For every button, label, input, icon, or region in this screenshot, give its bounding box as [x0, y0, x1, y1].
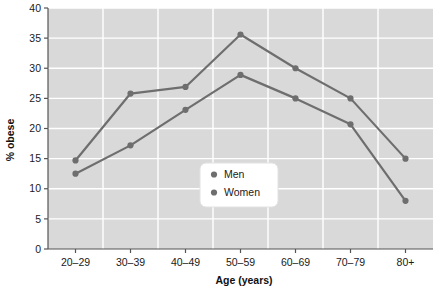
chart-canvas: 0510152025303540 20–2930–3940–4950–5960–…	[0, 0, 440, 291]
data-point	[182, 107, 188, 113]
legend-marker	[211, 189, 217, 195]
obesity-by-age-line-chart: 0510152025303540 20–2930–3940–4950–5960–…	[0, 0, 440, 291]
y-tick-label: 0	[35, 243, 41, 255]
y-tick-label: 35	[29, 32, 41, 44]
chart-legend: MenWomen	[200, 163, 278, 207]
x-tick-label: 20–29	[61, 256, 90, 268]
x-tick-label: 80+	[397, 256, 415, 268]
data-point	[127, 90, 133, 96]
y-tick-label: 5	[35, 213, 41, 225]
data-point	[72, 157, 78, 163]
data-point	[347, 121, 353, 127]
data-point	[402, 156, 408, 162]
y-tick-label: 15	[29, 152, 41, 164]
x-tick-label: 60–69	[281, 256, 310, 268]
x-tick-label: 30–39	[116, 256, 145, 268]
y-tick-label: 10	[29, 182, 41, 194]
data-point	[237, 72, 243, 78]
data-point	[237, 31, 243, 37]
data-point	[292, 95, 298, 101]
y-tick-label: 30	[29, 62, 41, 74]
y-tick-label: 25	[29, 92, 41, 104]
legend-marker	[211, 171, 217, 177]
x-tick-label: 70–79	[336, 256, 365, 268]
data-point	[402, 198, 408, 204]
y-tick-label: 40	[29, 2, 41, 14]
x-tick-label: 40–49	[171, 256, 200, 268]
data-point	[127, 142, 133, 148]
x-tick-label: 50–59	[226, 256, 255, 268]
data-point	[347, 95, 353, 101]
data-point	[72, 171, 78, 177]
legend-label: Men	[224, 168, 245, 180]
y-axis-title: % obese	[4, 119, 16, 162]
data-point	[182, 84, 188, 90]
legend-label: Women	[224, 186, 260, 198]
data-point	[292, 65, 298, 71]
y-tick-label: 20	[29, 122, 41, 134]
x-axis-title: Age (years)	[215, 274, 272, 286]
